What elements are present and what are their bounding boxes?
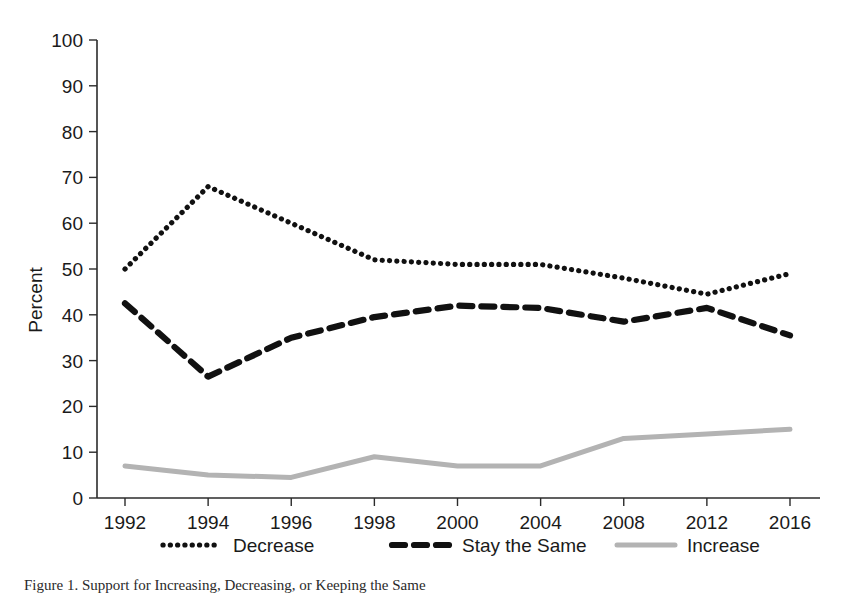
figure-root: Percent 0102030405060708090100 199219941… <box>0 0 864 595</box>
y-tick-label: 60 <box>62 213 83 234</box>
y-tick-label: 0 <box>72 488 83 509</box>
legend-label-stay-the-same: Stay the Same <box>462 535 587 556</box>
y-tick-label: 20 <box>62 396 83 417</box>
y-tick-label: 10 <box>62 442 83 463</box>
x-tick-label: 1992 <box>104 512 146 533</box>
y-axis-title: Percent <box>25 267 46 333</box>
series-line-decrease <box>125 187 790 295</box>
x-tick-label: 1998 <box>353 512 395 533</box>
x-tick-label: 1994 <box>187 512 230 533</box>
y-tick-label: 40 <box>62 305 83 326</box>
series-line-stay-the-same <box>125 303 790 376</box>
y-tick-label: 80 <box>62 122 83 143</box>
chart-legend: DecreaseStay the SameIncrease <box>163 535 760 556</box>
figure-caption: Figure 1. Support for Increasing, Decrea… <box>24 576 584 595</box>
x-axis-ticks: 199219941996199820002004200820122016 <box>104 498 811 533</box>
x-tick-label: 2004 <box>519 512 562 533</box>
legend-label-increase: Increase <box>687 535 760 556</box>
series-layer <box>125 187 790 478</box>
y-tick-label: 70 <box>62 167 83 188</box>
x-tick-label: 2008 <box>603 512 645 533</box>
y-tick-label: 100 <box>51 30 83 51</box>
series-line-increase <box>125 429 790 477</box>
x-tick-label: 2012 <box>686 512 728 533</box>
y-tick-label: 50 <box>62 259 83 280</box>
y-axis-ticks: 0102030405060708090100 <box>51 30 97 509</box>
legend-label-decrease: Decrease <box>233 535 314 556</box>
y-tick-label: 30 <box>62 351 83 372</box>
x-tick-label: 1996 <box>270 512 312 533</box>
line-chart: Percent 0102030405060708090100 199219941… <box>0 0 864 595</box>
x-tick-label: 2016 <box>769 512 811 533</box>
y-tick-label: 90 <box>62 76 83 97</box>
x-tick-label: 2000 <box>436 512 478 533</box>
